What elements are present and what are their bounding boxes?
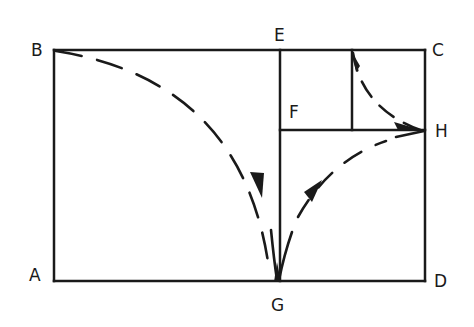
label-B: B xyxy=(31,40,43,60)
label-E: E xyxy=(274,25,285,45)
arc-G-to-H xyxy=(298,141,386,217)
label-H: H xyxy=(435,121,448,141)
label-D: D xyxy=(434,271,447,291)
arrowhead-GH-mid xyxy=(304,180,322,202)
arrowhead-BG-mid xyxy=(250,172,264,198)
label-G: G xyxy=(271,295,284,315)
diagram-canvas: B E C F H A G D xyxy=(0,0,474,327)
label-A: A xyxy=(29,265,41,285)
arc-G-to-H-end xyxy=(396,131,424,137)
label-F: F xyxy=(289,102,299,122)
label-C: C xyxy=(432,40,444,60)
arc-B-to-G xyxy=(56,51,268,262)
arc-inner-to-H xyxy=(353,53,423,131)
